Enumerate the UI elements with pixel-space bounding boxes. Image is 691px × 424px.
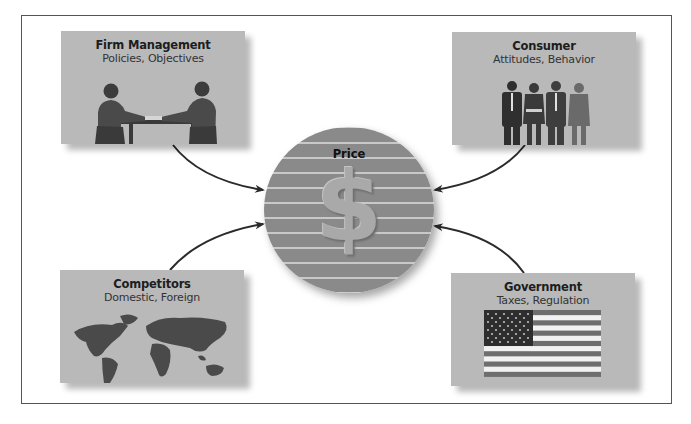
dollar-sign-icon: $ (316, 157, 383, 257)
handshake-meeting-icon (61, 31, 245, 144)
us-flag-icon (451, 273, 635, 386)
arrow-competitors-to-price (170, 224, 263, 270)
arrow-firm-to-price (173, 145, 263, 190)
people-group-icon (452, 32, 636, 145)
node-government: Government Taxes, Regulation (451, 273, 635, 386)
arrow-government-to-price (435, 226, 524, 273)
node-firm-management: Firm Management Policies, Objectives (61, 31, 245, 144)
price-circle: Price $ (264, 127, 434, 293)
node-consumer: Consumer Attitudes, Behavior (452, 32, 636, 145)
node-competitors: Competitors Domestic, Foreign (60, 270, 244, 383)
arrow-consumer-to-price (435, 145, 525, 190)
world-map-icon (60, 270, 244, 383)
